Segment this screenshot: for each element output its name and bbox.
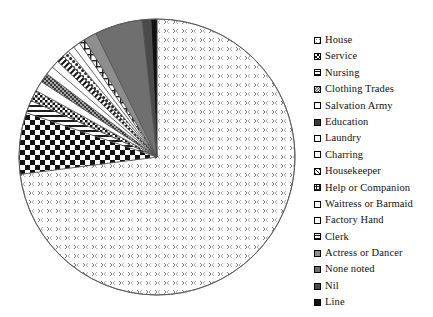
legend-label: Salvation Army [325,98,393,114]
legend-label: Clothing Trades [325,81,394,97]
pie-svg [0,0,310,317]
legend-label: Nil [325,278,339,294]
legend-label: Service [325,48,357,64]
legend-item-house[interactable]: House [314,32,433,48]
legend-label: Help or Companion [325,180,410,196]
legend-item-nursing[interactable]: Nursing [314,65,433,81]
legend-label: Nursing [325,65,360,81]
legend-swatch-blank-white [314,151,321,158]
legend-swatch-checker-large [314,53,321,60]
legend-label: Clerk [325,229,349,245]
pie-chart-figure: House Service Nursing Clothing Trades Sa… [0,0,433,317]
pie-slice-group [19,19,295,295]
legend-swatch-blank-white [314,102,321,109]
legend-swatch-diagonal-hatch [314,168,321,175]
legend-item-charring[interactable]: Charring [314,147,433,163]
legend-swatch-black-solid [314,299,321,306]
legend-item-service[interactable]: Service [314,48,433,64]
legend-label: Factory Hand [325,212,384,228]
legend-label: House [325,32,352,48]
legend-label: Actress or Dancer [325,245,403,261]
legend-swatch-horizontal-lines [314,69,321,76]
legend-item-clerk[interactable]: Clerk [314,229,433,245]
legend-item-nil[interactable]: Nil [314,278,433,294]
legend-swatch-dot-dense-dark [314,119,321,126]
legend-label: Waitress or Barmaid [325,196,413,212]
legend-label: Charring [325,147,363,163]
legend-item-none-noted[interactable]: None noted [314,261,433,277]
legend-swatch-dot-sparse [314,37,321,44]
legend-item-actress-or-dancer[interactable]: Actress or Dancer [314,245,433,261]
legend-item-laundry[interactable]: Laundry [314,130,433,146]
legend-label: Laundry [325,130,361,146]
legend-swatch-checker-small [314,86,321,93]
legend-item-line[interactable]: Line [314,294,433,310]
legend-swatch-gray-medium [314,250,321,257]
pie-chart-area [0,0,310,317]
legend-swatch-grid-lines [314,233,321,240]
legend-swatch-blank-white [314,217,321,224]
legend-item-help-or-companion[interactable]: Help or Companion [314,180,433,196]
legend-item-salvation-army[interactable]: Salvation Army [314,98,433,114]
legend-label: None noted [325,261,375,277]
legend-item-clothing-trades[interactable]: Clothing Trades [314,81,433,97]
legend-label: Education [325,114,368,130]
legend-label: Housekeeper [325,163,381,179]
legend-swatch-gray-dark [314,266,321,273]
legend-label: Line [325,294,345,310]
legend-item-housekeeper[interactable]: Housekeeper [314,163,433,179]
chart-legend: House Service Nursing Clothing Trades Sa… [314,32,433,304]
legend-item-education[interactable]: Education [314,114,433,130]
legend-item-waitress-or-barmaid[interactable]: Waitress or Barmaid [314,196,433,212]
legend-item-factory-hand[interactable]: Factory Hand [314,212,433,228]
legend-swatch-dot-medium [314,184,321,191]
legend-swatch-blank-white [314,201,321,208]
legend-swatch-blank-white [314,135,321,142]
legend-swatch-gray-darker [314,283,321,290]
